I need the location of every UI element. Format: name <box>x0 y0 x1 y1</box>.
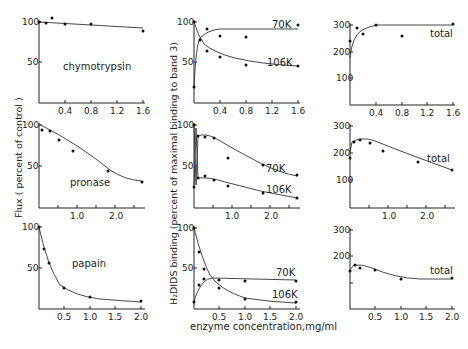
svg-text:1.5: 1.5 <box>419 312 433 322</box>
svg-text:100: 100 <box>22 222 39 232</box>
series-label-106k-papain: 106K <box>272 289 298 300</box>
panel-binding-chymotrypsin: 100 50 0.4 0.8 1.2 1.6 70K 106K <box>177 17 306 116</box>
svg-text:1.0: 1.0 <box>238 312 253 322</box>
svg-text:50: 50 <box>182 161 194 171</box>
svg-text:1.0: 1.0 <box>225 211 240 221</box>
svg-text:200: 200 <box>333 251 350 261</box>
svg-text:1.0: 1.0 <box>83 312 98 322</box>
series-label-106k-pronase: 106K <box>266 184 292 195</box>
svg-text:1.6: 1.6 <box>291 106 306 116</box>
svg-text:50: 50 <box>182 263 194 273</box>
panel-flux-pronase: 100 50 1.0 2.0 pronase <box>22 120 145 221</box>
svg-text:0.5: 0.5 <box>368 312 382 322</box>
series-label-total-papain: total <box>430 265 453 276</box>
svg-text:50: 50 <box>182 57 194 67</box>
svg-text:300: 300 <box>333 20 350 30</box>
panel-binding-pronase: 100 50 1.0 2.0 70K 106K <box>177 120 300 221</box>
svg-text:100: 100 <box>22 17 39 27</box>
svg-text:50: 50 <box>27 161 39 171</box>
panel-total-chymotrypsin: 300 200 100 0.4 0.8 1.2 1.6 total <box>333 20 461 118</box>
svg-text:1.2: 1.2 <box>420 108 434 118</box>
flux-y-axis-label: Flux ( percent of control ) <box>13 97 24 218</box>
svg-text:50: 50 <box>27 263 39 273</box>
series-label-70k-pronase: 70K <box>266 163 286 174</box>
svg-text:0.8: 0.8 <box>239 106 254 116</box>
svg-text:1.0: 1.0 <box>394 312 409 322</box>
svg-text:0.4: 0.4 <box>213 106 228 116</box>
svg-text:0.8: 0.8 <box>395 108 410 118</box>
x-axis-label: enzyme concentration,mg/ml <box>190 321 337 332</box>
svg-text:300: 300 <box>333 225 350 235</box>
svg-text:1.6: 1.6 <box>136 106 151 116</box>
svg-text:100: 100 <box>336 175 353 185</box>
svg-text:100: 100 <box>177 17 194 27</box>
svg-text:1.0: 1.0 <box>382 211 397 221</box>
series-label-total-pronase: total <box>427 153 450 164</box>
svg-text:1.2: 1.2 <box>265 106 279 116</box>
svg-text:2.0: 2.0 <box>134 312 149 322</box>
panel-total-papain: 300 200 0.5 1.0 1.5 2.0 total <box>333 225 460 322</box>
svg-text:2.0: 2.0 <box>264 211 279 221</box>
panel-total-pronase: 300 200 100 1.0 2.0 total <box>333 121 455 221</box>
enzyme-label-papain: papain <box>72 258 106 269</box>
svg-text:300: 300 <box>333 121 350 131</box>
panel-flux-papain: 100 50 0.5 1.0 1.5 2.0 papain <box>22 222 149 322</box>
svg-text:0.8: 0.8 <box>84 106 99 116</box>
svg-text:2.0: 2.0 <box>445 312 460 322</box>
svg-text:0.5: 0.5 <box>57 312 71 322</box>
svg-text:1.0: 1.0 <box>70 211 85 221</box>
series-label-total-chymo: total <box>430 28 453 39</box>
svg-text:1.2: 1.2 <box>110 106 124 116</box>
svg-text:1.5: 1.5 <box>263 312 277 322</box>
svg-text:2.0: 2.0 <box>420 211 435 221</box>
svg-text:2.0: 2.0 <box>109 211 124 221</box>
svg-text:50: 50 <box>27 57 39 67</box>
svg-text:200: 200 <box>333 148 350 158</box>
svg-text:0.5: 0.5 <box>212 312 226 322</box>
svg-text:0.4: 0.4 <box>58 106 73 116</box>
svg-text:100: 100 <box>177 120 194 130</box>
series-label-70k-chymo: 70K <box>272 19 292 30</box>
enzyme-label-chymotrypsin: chymotrypsin <box>63 61 131 72</box>
binding-y-axis-label: H₂DIDS binding (percent of maximal bindi… <box>168 42 179 305</box>
svg-text:100: 100 <box>336 73 353 83</box>
svg-text:100: 100 <box>22 120 39 130</box>
panel-binding-papain: 100 50 0.5 1.0 1.5 2.0 70K 106K <box>177 223 304 322</box>
svg-text:100: 100 <box>177 223 194 233</box>
series-label-70k-papain: 70K <box>276 267 296 278</box>
svg-text:200: 200 <box>333 47 350 57</box>
svg-text:1.6: 1.6 <box>446 108 461 118</box>
svg-text:0.4: 0.4 <box>369 108 384 118</box>
svg-text:2.0: 2.0 <box>289 312 304 322</box>
svg-text:1.5: 1.5 <box>108 312 122 322</box>
enzyme-label-pronase: pronase <box>70 177 110 188</box>
panel-flux-chymotrypsin: 100 50 0.4 0.8 1.2 1.6 chymotrypsin <box>22 17 151 117</box>
figure-canvas: Flux ( percent of control ) H₂DIDS bindi… <box>0 0 468 349</box>
series-label-106k-chymo: 106K <box>267 57 293 68</box>
